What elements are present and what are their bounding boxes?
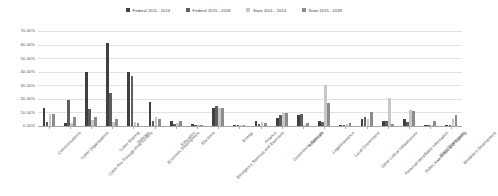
bar-group	[445, 31, 457, 126]
bar-group	[361, 31, 373, 126]
bar-group	[64, 31, 76, 126]
bar-group	[255, 31, 267, 126]
gridline	[38, 45, 462, 46]
bar-group	[85, 31, 97, 126]
bar-group	[233, 31, 245, 126]
legend-swatch-icon	[186, 8, 190, 12]
x-axis-line	[38, 126, 462, 127]
legend-item-label: State 2015 - 2018	[309, 8, 342, 13]
bar[interactable]	[73, 117, 76, 127]
bar[interactable]	[67, 100, 70, 126]
gridline	[38, 72, 462, 73]
x-axis-category-label: Local Government	[354, 131, 381, 158]
bar-group	[106, 31, 118, 126]
x-axis-category-label: Legal/Insurance	[332, 131, 356, 155]
y-axis-tick-label: 20.00%	[20, 96, 35, 101]
bar[interactable]	[131, 76, 134, 126]
x-axis-tick	[451, 126, 452, 129]
bar[interactable]	[285, 113, 288, 126]
bar-group	[424, 31, 436, 126]
bar[interactable]	[221, 108, 224, 126]
x-axis-tick	[261, 126, 262, 129]
x-axis-category-label: Economic Development	[166, 131, 200, 165]
bar-group	[43, 31, 55, 126]
legend-item-0[interactable]: Federal 2011 - 2014	[126, 8, 170, 13]
legend-item-label: Federal 2011 - 2014	[133, 8, 171, 13]
x-axis-category-label: Healthcare	[308, 131, 325, 148]
bar-group	[191, 31, 203, 126]
bar-group	[297, 31, 309, 126]
x-axis-tick	[367, 126, 368, 129]
bar[interactable]	[370, 112, 373, 126]
y-axis: 0.00%10.00%20.00%30.00%40.00%50.00%60.00…	[0, 0, 35, 196]
x-axis-tick	[239, 126, 240, 129]
bar-group	[318, 31, 330, 126]
bar[interactable]	[94, 117, 97, 127]
bar-group	[149, 31, 161, 126]
bar[interactable]	[52, 114, 55, 126]
x-axis-tick	[409, 126, 410, 129]
y-axis-tick-label: 10.00%	[20, 110, 35, 115]
legend-swatch-icon	[126, 8, 130, 12]
bar-group	[127, 31, 139, 126]
legend-swatch-icon	[246, 8, 250, 12]
x-axis-tick	[133, 126, 134, 129]
x-axis-tick	[112, 126, 113, 129]
gridline	[38, 112, 462, 113]
x-axis-category-label: Workforce Development	[463, 131, 498, 166]
bar-group	[276, 31, 288, 126]
x-axis-tick	[282, 126, 283, 129]
x-axis-tick	[155, 126, 156, 129]
gridline	[38, 31, 462, 32]
chart-legend: Federal 2011 - 2014Federal 2015 - 2018St…	[0, 4, 468, 16]
bar[interactable]	[158, 119, 161, 126]
bar-group	[382, 31, 394, 126]
x-axis-tick	[218, 126, 219, 129]
y-axis-tick-label: 60.00%	[20, 42, 35, 47]
y-axis-tick-label: 0.00%	[23, 123, 35, 128]
x-axis-tick	[91, 126, 92, 129]
y-axis-tick-label: 40.00%	[20, 69, 35, 74]
y-axis-tick-label: 30.00%	[20, 83, 35, 88]
bar[interactable]	[388, 98, 391, 127]
bar-group	[212, 31, 224, 126]
legend-swatch-icon	[302, 8, 306, 12]
legend-item-1[interactable]: Federal 2015 - 2018	[186, 8, 230, 13]
x-axis-category-label: Communications	[57, 131, 82, 156]
gridline	[38, 58, 462, 59]
x-axis-tick	[324, 126, 325, 129]
x-axis-category-label: Energy	[242, 131, 255, 144]
y-axis-tick-label: 70.00%	[20, 28, 35, 33]
x-axis-tick	[345, 126, 346, 129]
bar[interactable]	[327, 103, 330, 126]
gridline	[38, 85, 462, 86]
bar[interactable]	[455, 115, 458, 126]
x-axis-tick	[49, 126, 50, 129]
x-axis-tick	[70, 126, 71, 129]
plot-area	[38, 31, 462, 126]
x-axis-tick	[430, 126, 431, 129]
legend-item-label: Federal 2015 - 2018	[193, 8, 231, 13]
x-axis-tick	[388, 126, 389, 129]
bar-group	[403, 31, 415, 126]
gridline	[38, 99, 462, 100]
bar[interactable]	[412, 111, 415, 126]
legend-item-label: State 2011 - 2014	[253, 8, 286, 13]
legend-item-2[interactable]: State 2011 - 2014	[246, 8, 286, 13]
x-axis-category-label: Elections	[201, 131, 216, 146]
x-axis-tick	[303, 126, 304, 129]
x-axis-tick	[176, 126, 177, 129]
bar-group	[339, 31, 351, 126]
bar[interactable]	[115, 119, 118, 126]
legend-item-3[interactable]: State 2015 - 2018	[302, 8, 342, 13]
y-axis-tick-label: 50.00%	[20, 56, 35, 61]
x-axis-tick	[197, 126, 198, 129]
bar-group	[170, 31, 182, 126]
x-axis-category-label: Cyber Organizations	[80, 131, 110, 161]
